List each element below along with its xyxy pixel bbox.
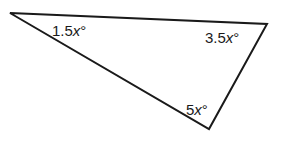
triangle-diagram: 1.5x° 3.5x° 5x° xyxy=(0,0,291,142)
angle-label-top-right: 3.5x° xyxy=(205,29,239,46)
angle-label-top-left: 1.5x° xyxy=(52,22,86,39)
angle-label-bottom: 5x° xyxy=(186,101,208,118)
